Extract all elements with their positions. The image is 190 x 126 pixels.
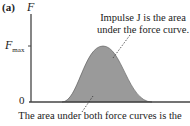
impulse-annotation-line1: Impulse J is the area — [95, 12, 190, 24]
area-annotation: The area under both force curves is the — [0, 110, 190, 121]
impulse-annotation-line2: under the force curve. — [95, 24, 190, 36]
top-annotation-leader — [113, 35, 130, 58]
impulse-annotation: Impulse J is the area under the force cu… — [95, 12, 190, 36]
impulse-area — [62, 46, 152, 102]
